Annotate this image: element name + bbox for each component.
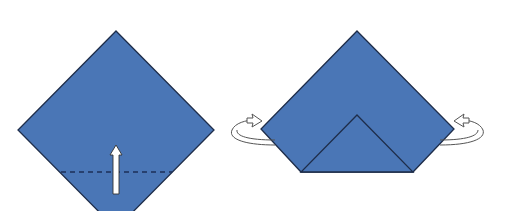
step-2 xyxy=(231,31,483,172)
step-1 xyxy=(18,31,214,211)
origami-diagram xyxy=(0,0,505,211)
